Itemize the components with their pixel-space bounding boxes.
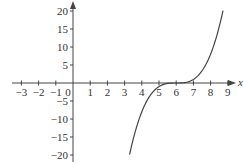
y-tick-label: 10 [57,41,69,53]
x-tick-label: 2 [105,86,111,98]
y-tick-label: −5 [56,95,68,107]
y-tick-label: −10 [51,113,69,125]
x-tick-label: 6 [173,86,179,98]
x-tick-label: 1 [87,86,93,98]
y-tick-label: 5 [63,59,69,71]
y-axis-arrow-icon [70,1,76,9]
x-tick-label: 4 [139,86,145,98]
y-tick-label: 20 [57,5,69,17]
cubic-function-graph: −3−2−10123456789 2015105−5−10−15−20 x [0,0,244,164]
x-axis-label: x [237,76,243,88]
x-tick-label: 8 [208,86,214,98]
x-tick-label: 3 [122,86,128,98]
x-tick-label: 7 [191,86,197,98]
x-tick-label: 9 [225,86,231,98]
y-tick-label: 15 [57,23,69,35]
x-tick-label: −2 [33,86,45,98]
y-axis [70,1,76,162]
y-tick-label: −15 [51,131,69,143]
y-tick-label: −20 [51,149,69,161]
x-tick-label: −3 [16,86,28,98]
